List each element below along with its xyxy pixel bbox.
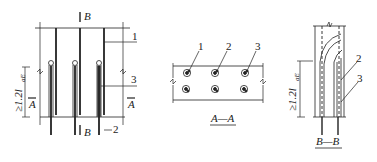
elevation-view bbox=[22, 12, 137, 135]
break-mark-left bbox=[37, 69, 43, 74]
section-a-label-left: A bbox=[28, 98, 36, 110]
leader-aa-3 bbox=[247, 51, 256, 71]
callout-aa-2: 2 bbox=[226, 40, 232, 52]
hook-bar-2 bbox=[73, 61, 78, 136]
bb-bent-bar-outer bbox=[320, 34, 341, 117]
bb-bent-bar-inner bbox=[324, 40, 341, 117]
section-aa-title: A—A bbox=[210, 112, 235, 124]
hook-bar-3 bbox=[97, 61, 102, 136]
break-mark-aa-left bbox=[170, 79, 176, 84]
svg-text:≥1.2l: ≥1.2l bbox=[12, 89, 24, 112]
callout-bb-3: 3 bbox=[357, 72, 363, 84]
break-mark-aa-right bbox=[260, 79, 266, 84]
svg-text:aE: aE bbox=[19, 74, 27, 83]
section-b-label-top: B bbox=[84, 10, 91, 22]
svg-text:≥1.2l: ≥1.2l bbox=[286, 88, 298, 111]
dimension-label-bb: ≥1.2l aE bbox=[286, 73, 301, 112]
bar-section-row-top bbox=[183, 69, 248, 76]
bar-section-row-bottom bbox=[182, 85, 247, 92]
section-a-label-right: A bbox=[127, 98, 135, 110]
leader-bb-2 bbox=[341, 62, 357, 80]
hook-bar-1 bbox=[49, 61, 54, 136]
svg-text:aE: aE bbox=[293, 73, 301, 82]
callout-2: 2 bbox=[113, 123, 119, 135]
reinforcement-diagram: B B A A 1 2 3 ≥1.2l aE 1 2 3 A—A bbox=[0, 0, 377, 162]
break-mark-right bbox=[120, 69, 126, 74]
section-b-label-bottom: B bbox=[84, 126, 91, 138]
callout-1: 1 bbox=[132, 30, 138, 42]
callout-aa-3: 3 bbox=[255, 40, 261, 52]
leader-aa-2 bbox=[217, 51, 227, 71]
callout-3: 3 bbox=[131, 73, 137, 85]
callout-bb-2: 2 bbox=[356, 52, 362, 64]
callout-aa-1: 1 bbox=[198, 40, 204, 52]
section-bb-view bbox=[297, 22, 358, 148]
section-bb-title: B—B bbox=[316, 135, 340, 147]
leader-aa-1 bbox=[189, 51, 199, 71]
leader-bb-3 bbox=[341, 82, 358, 102]
